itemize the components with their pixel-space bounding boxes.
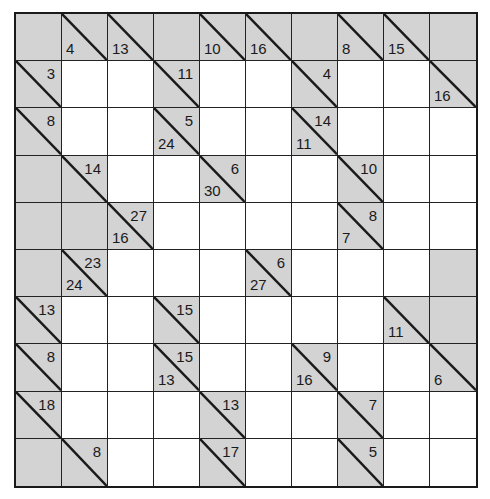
blocked-cell (16, 439, 62, 486)
entry-cell[interactable] (384, 392, 430, 439)
clue-cell: 15 (154, 297, 200, 344)
entry-cell[interactable] (338, 344, 384, 391)
entry-cell[interactable] (430, 156, 476, 203)
entry-cell[interactable] (246, 156, 292, 203)
clue-cell: 5 (338, 439, 384, 486)
clue-cell: 13 (108, 14, 154, 61)
entry-cell[interactable] (154, 439, 200, 486)
clue-cell: 2324 (62, 250, 108, 297)
down-clue: 11 (296, 136, 312, 151)
blocked-cell (154, 14, 200, 61)
blocked-cell (430, 297, 476, 344)
entry-cell[interactable] (292, 156, 338, 203)
entry-cell[interactable] (430, 203, 476, 250)
entry-cell[interactable] (62, 344, 108, 391)
entry-cell[interactable] (154, 203, 200, 250)
entry-cell[interactable] (200, 203, 246, 250)
entry-cell[interactable] (430, 439, 476, 486)
entry-cell[interactable] (246, 108, 292, 155)
entry-cell[interactable] (246, 297, 292, 344)
entry-cell[interactable] (108, 392, 154, 439)
blocked-cell (16, 156, 62, 203)
entry-cell[interactable] (246, 344, 292, 391)
entry-cell[interactable] (154, 250, 200, 297)
entry-cell[interactable] (200, 108, 246, 155)
entry-cell[interactable] (62, 108, 108, 155)
down-clue: 24 (66, 277, 83, 292)
entry-cell[interactable] (384, 439, 430, 486)
entry-cell[interactable] (338, 108, 384, 155)
across-clue: 11 (177, 66, 193, 81)
across-clue: 4 (323, 66, 331, 81)
entry-cell[interactable] (292, 297, 338, 344)
entry-cell[interactable] (384, 156, 430, 203)
entry-cell[interactable] (108, 156, 154, 203)
clue-cell: 3 (16, 61, 62, 108)
down-clue: 11 (388, 324, 404, 339)
clue-cell: 18 (16, 392, 62, 439)
entry-cell[interactable] (200, 297, 246, 344)
down-clue: 16 (296, 372, 313, 387)
across-clue: 8 (93, 444, 101, 459)
clue-cell: 13 (200, 392, 246, 439)
clue-cell: 16 (246, 14, 292, 61)
clue-cell: 6 (430, 344, 476, 391)
down-clue: 6 (434, 372, 442, 387)
entry-cell[interactable] (384, 61, 430, 108)
across-clue: 14 (314, 113, 331, 128)
entry-cell[interactable] (246, 203, 292, 250)
down-clue: 16 (250, 41, 267, 56)
entry-cell[interactable] (154, 392, 200, 439)
entry-cell[interactable] (62, 297, 108, 344)
entry-cell[interactable] (108, 250, 154, 297)
entry-cell[interactable] (200, 344, 246, 391)
blocked-cell (430, 250, 476, 297)
across-clue: 8 (47, 349, 55, 364)
entry-cell[interactable] (108, 297, 154, 344)
down-clue: 8 (342, 41, 350, 56)
down-clue: 7 (342, 230, 350, 245)
entry-cell[interactable] (246, 61, 292, 108)
entry-cell[interactable] (62, 61, 108, 108)
down-clue: 16 (434, 88, 451, 103)
entry-cell[interactable] (62, 392, 108, 439)
across-clue: 13 (222, 397, 239, 412)
entry-cell[interactable] (108, 344, 154, 391)
entry-cell[interactable] (292, 203, 338, 250)
entry-cell[interactable] (246, 392, 292, 439)
entry-cell[interactable] (384, 108, 430, 155)
across-clue: 7 (369, 397, 377, 412)
blocked-cell (62, 203, 108, 250)
entry-cell[interactable] (154, 156, 200, 203)
entry-cell[interactable] (200, 250, 246, 297)
blocked-cell (16, 203, 62, 250)
clue-cell: 10 (338, 156, 384, 203)
across-clue: 8 (47, 113, 55, 128)
entry-cell[interactable] (108, 439, 154, 486)
across-clue: 27 (130, 208, 147, 223)
entry-cell[interactable] (200, 61, 246, 108)
entry-cell[interactable] (338, 61, 384, 108)
entry-cell[interactable] (338, 250, 384, 297)
entry-cell[interactable] (108, 108, 154, 155)
entry-cell[interactable] (292, 250, 338, 297)
clue-cell: 916 (292, 344, 338, 391)
entry-cell[interactable] (108, 61, 154, 108)
entry-cell[interactable] (384, 250, 430, 297)
entry-cell[interactable] (384, 344, 430, 391)
entry-cell[interactable] (292, 439, 338, 486)
down-clue: 15 (388, 41, 405, 56)
entry-cell[interactable] (430, 108, 476, 155)
entry-cell[interactable] (384, 203, 430, 250)
across-clue: 6 (277, 255, 285, 270)
entry-cell[interactable] (430, 392, 476, 439)
across-clue: 13 (38, 302, 55, 317)
entry-cell[interactable] (292, 392, 338, 439)
across-clue: 6 (231, 161, 239, 176)
entry-cell[interactable] (246, 439, 292, 486)
across-clue: 10 (360, 161, 377, 176)
across-clue: 23 (84, 255, 101, 270)
entry-cell[interactable] (338, 297, 384, 344)
clue-cell: 10 (200, 14, 246, 61)
clue-cell: 16 (430, 61, 476, 108)
